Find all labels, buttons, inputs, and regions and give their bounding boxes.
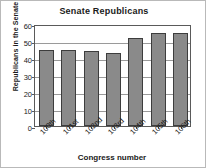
x-axis-title: Congress number (31, 153, 193, 162)
x-axis-ticks (35, 26, 190, 126)
y-tick-label: 30 (24, 73, 32, 82)
y-tick-label: 40 (24, 56, 32, 65)
y-tick-label: 20 (24, 90, 32, 99)
y-tick-label: 60 (24, 22, 32, 31)
y-tick-mark (32, 128, 35, 129)
chart-title: Senate Republicans (1, 6, 206, 16)
y-tick-label: 50 (24, 39, 32, 48)
plot-area: 0102030405060 (34, 25, 191, 127)
y-axis-title: Republicans in the Senate (12, 0, 19, 99)
y-tick-label: 0 (28, 124, 32, 133)
y-tick-label: 10 (24, 107, 32, 116)
chart-figure: Senate Republicans Republicans in the Se… (0, 0, 206, 168)
